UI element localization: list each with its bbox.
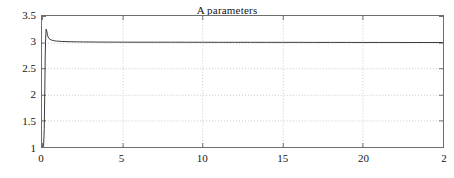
- x-tick-label: 5: [102, 153, 142, 164]
- y-tick-label: 3: [0, 36, 36, 47]
- x-tick-label: 15: [263, 153, 303, 164]
- x-tick-label: 10: [182, 153, 222, 164]
- y-tick-label: 1: [0, 143, 36, 154]
- data-line-a-parameter: [42, 16, 443, 147]
- y-tick-label: 2: [0, 89, 36, 100]
- figure-canvas: A parameters 11.522.533.5 051015202: [0, 0, 454, 178]
- x-tick-label: 2: [424, 153, 454, 164]
- y-tick-label: 1.5: [0, 116, 36, 127]
- x-tick-label: 20: [343, 153, 383, 164]
- y-tick-label: 2.5: [0, 63, 36, 74]
- plot-area: [41, 15, 444, 148]
- x-tick-label: 0: [21, 153, 61, 164]
